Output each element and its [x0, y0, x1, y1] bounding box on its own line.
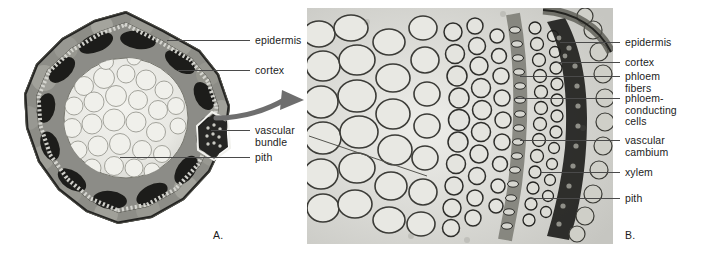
leader-b-vascular-cambium: [520, 140, 620, 141]
label-b-phloem-fibers: phloem fibers: [625, 71, 660, 94]
magnification-arrow: [212, 88, 317, 128]
panel-a-letter: A.: [213, 229, 224, 241]
label-b-epidermis: epidermis: [625, 37, 671, 49]
leader-a-cortex: [178, 70, 250, 71]
label-a-epidermis: epidermis: [255, 35, 301, 47]
leader-b-phloem-conducting-cells: [514, 98, 620, 99]
panel-b-micrograph: [307, 8, 613, 244]
leader-b-epidermis: [560, 42, 620, 43]
leader-a-epidermis: [167, 40, 250, 41]
panel-a-stem-cross-section: [14, 8, 239, 230]
label-b-vascular-cambium: vascular cambium: [625, 135, 668, 158]
label-a-cortex: cortex: [255, 65, 284, 77]
leader-b-pith: [530, 198, 620, 199]
label-a-pith: pith: [255, 152, 272, 164]
leader-a-pith: [120, 157, 250, 158]
leader-b-phloem-fibers: [520, 76, 620, 77]
leader-b-cortex: [556, 62, 620, 63]
leader-b-xylem: [540, 172, 620, 173]
label-a-vascular-bundle: vascular bundle: [255, 125, 295, 148]
label-b-phloem-conducting-cells: phloem- conducting cells: [625, 93, 677, 128]
leader-a-vascular-bundle: [211, 130, 250, 131]
label-b-xylem: xylem: [625, 167, 653, 179]
label-b-cortex: cortex: [625, 57, 654, 69]
label-b-pith: pith: [625, 193, 642, 205]
figure-plant-stem-anatomy: epidermis cortex vascular bundle pith A.: [0, 0, 705, 256]
panel-b-letter: B.: [625, 229, 636, 241]
b-xylem-cells: [443, 18, 512, 237]
